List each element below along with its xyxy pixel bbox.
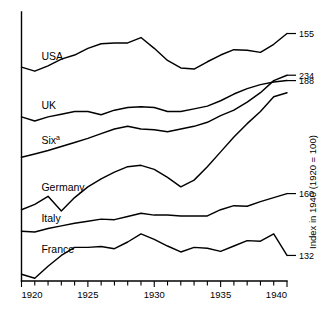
x-tick-label: 1925 (77, 289, 98, 300)
y-axis-title: Index in 1940 (1920 = 100) (307, 135, 318, 249)
series-label-uk: UK (41, 99, 56, 111)
series-label-usa: USA (41, 50, 63, 62)
x-tick-label: 1920 (22, 289, 43, 300)
series-line-uk (22, 81, 288, 121)
series-label-france: France (41, 243, 74, 255)
end-value-six: 234 (299, 71, 314, 81)
series-lines (22, 34, 288, 279)
x-axis-tick-labels: 19201925193019351940 (22, 289, 288, 300)
series-line-six (22, 75, 288, 157)
series-line-germany (22, 93, 288, 211)
series-label-italy: Italy (41, 212, 61, 224)
end-value-usa: 155 (299, 29, 314, 39)
x-tick-label: 1940 (266, 289, 287, 300)
series-labels: USAUKSixaGermanyItalyFrance (41, 50, 85, 255)
y-axis-title-group: Index in 1940 (1920 = 100) (307, 135, 318, 249)
line-chart: USAUKSixaGermanyItalyFrance 155188234160… (0, 0, 330, 311)
series-label-footnote-marker: a (56, 134, 60, 141)
chart-canvas: USAUKSixaGermanyItalyFrance 155188234160… (0, 0, 330, 311)
x-tick-label: 1935 (210, 289, 231, 300)
series-line-france (22, 234, 288, 278)
series-label-six: Sixa (41, 134, 60, 146)
series-label-germany: Germany (41, 181, 85, 193)
series-line-italy (22, 194, 288, 232)
end-value-france: 132 (299, 251, 314, 261)
x-tick-label: 1930 (144, 289, 165, 300)
x-axis-ticks (22, 281, 288, 287)
end-label-leaders (287, 34, 296, 256)
